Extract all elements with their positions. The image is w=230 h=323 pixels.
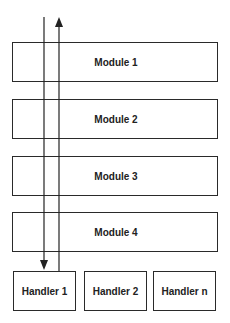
request-flow-arrows [0, 0, 230, 323]
down-arrow-icon [40, 17, 48, 270]
up-arrow-icon [55, 17, 63, 271]
